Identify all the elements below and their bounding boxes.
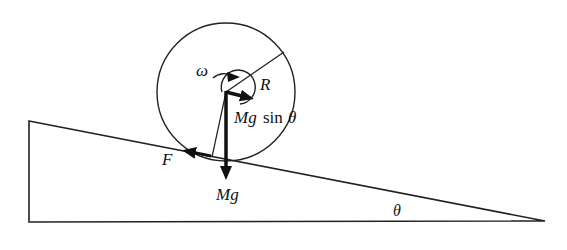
omega-label: ω — [196, 61, 208, 80]
force-mg-sin-theta-arrow — [226, 92, 250, 98]
weight-label: Mg — [215, 185, 239, 204]
contact-line — [212, 92, 226, 157]
mg-sin-theta-theta-label: θ — [288, 108, 296, 127]
friction-label: F — [161, 150, 173, 169]
radius-label: R — [259, 75, 271, 94]
incline-diagram: ω R Mg sin θ F Mg θ — [0, 0, 567, 250]
angle-theta-label: θ — [393, 202, 401, 219]
incline-triangle — [29, 121, 545, 222]
mg-sin-theta-sin-label: sin — [263, 108, 283, 127]
mg-sin-theta-mg-label: Mg — [233, 108, 257, 127]
angular-velocity-arrowhead-icon — [227, 72, 240, 82]
